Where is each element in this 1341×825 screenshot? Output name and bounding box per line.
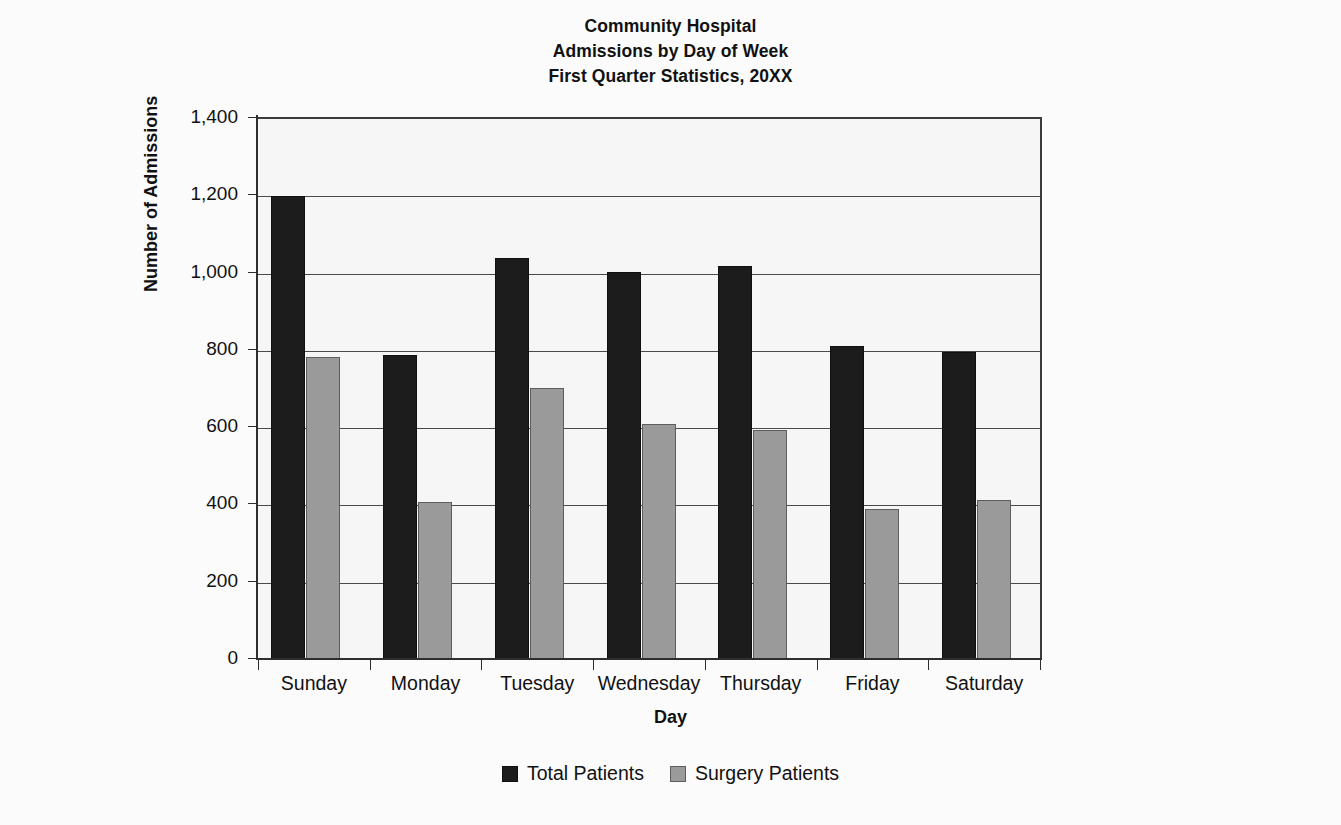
bar-tuesday-total [495,258,529,660]
x-axis-line [256,658,1042,660]
x-tick-mark-end [1040,658,1041,670]
y-tick-mark-0 [248,658,258,659]
x-tick-label-saturday: Saturday [928,671,1040,695]
x-tick-mark-0 [258,658,259,670]
bar-monday-total [383,355,417,660]
legend-swatch-icon [502,766,518,782]
legend-item-surgery-patients[interactable]: Surgery Patients [670,762,839,785]
bar-thursday-surgery [753,430,787,660]
legend-item-total-patients[interactable]: Total Patients [502,762,644,785]
bar-monday-surgery [418,502,452,660]
bar-friday-total [830,346,864,660]
y-axis-line [256,115,258,660]
bar-wednesday-surgery [642,424,676,660]
bar-saturday-total [942,352,976,660]
y-tick-mark-400 [248,503,258,504]
legend-label: Surgery Patients [695,762,839,785]
y-tick-label-1200: 1,200 [118,184,238,203]
x-tick-mark-6 [928,658,929,670]
y-tick-mark-1200 [248,194,258,195]
gridline-1000 [258,274,1040,275]
x-tick-mark-2 [481,658,482,670]
y-tick-label-200: 200 [118,571,238,590]
bar-saturday-surgery [977,500,1011,660]
y-tick-label-600: 600 [118,416,238,435]
x-tick-label-friday: Friday [817,671,929,695]
y-tick-mark-1000 [248,272,258,273]
y-tick-label-1400: 1,400 [118,107,238,126]
chart-title-line-1: Community Hospital [0,14,1341,39]
x-tick-mark-4 [705,658,706,670]
gridline-800 [258,351,1040,352]
chart-legend: Total PatientsSurgery Patients [0,762,1341,785]
x-axis-title: Day [0,707,1341,728]
x-tick-mark-3 [593,658,594,670]
y-tick-mark-600 [248,426,258,427]
y-tick-label-400: 400 [118,493,238,512]
x-tick-label-sunday: Sunday [258,671,370,695]
x-tick-label-monday: Monday [370,671,482,695]
x-tick-mark-1 [370,658,371,670]
bar-tuesday-surgery [530,388,564,660]
x-tick-label-wednesday: Wednesday [593,671,705,695]
x-tick-label-tuesday: Tuesday [481,671,593,695]
chart-title-line-2: Admissions by Day of Week [0,39,1341,64]
gridline-1200 [258,196,1040,197]
chart-title: Community Hospital Admissions by Day of … [0,14,1341,89]
bar-sunday-surgery [306,357,340,660]
y-tick-label-1000: 1,000 [118,262,238,281]
legend-label: Total Patients [527,762,644,785]
bar-chart: Community Hospital Admissions by Day of … [0,0,1341,825]
legend-swatch-icon [670,766,686,782]
y-tick-mark-1400 [248,117,258,118]
x-tick-label-thursday: Thursday [705,671,817,695]
bar-wednesday-total [607,272,641,660]
x-tick-mark-5 [817,658,818,670]
bar-friday-surgery [865,509,899,660]
y-tick-label-0: 0 [118,648,238,667]
y-tick-label-800: 800 [118,339,238,358]
y-tick-mark-200 [248,581,258,582]
bar-thursday-total [718,266,752,660]
plot-area [258,117,1042,660]
bar-sunday-total [271,196,305,660]
y-tick-mark-800 [248,349,258,350]
chart-title-line-3: First Quarter Statistics, 20XX [0,64,1341,89]
